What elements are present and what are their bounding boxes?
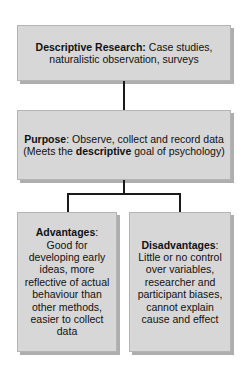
connector-purpose-stem [123, 180, 125, 194]
node-purpose-body-emphasis: descriptive [76, 145, 131, 157]
connector-branch-bar [67, 193, 181, 195]
node-disadvantages-heading-suffix: : [216, 239, 219, 251]
connector-branch-to-advantages [67, 193, 69, 213]
node-advantages-heading-suffix: : [95, 226, 98, 238]
connector-branch-to-disadvantages [179, 193, 181, 213]
descriptive-research-flowchart: Descriptive Research: Case studies, natu… [0, 0, 247, 385]
node-descriptive-research-heading: Descriptive Research: [36, 41, 146, 53]
node-purpose-heading-suffix: : [66, 133, 69, 145]
node-advantages-heading: Advantages [36, 226, 96, 238]
node-advantages-body: Good for developing early ideas, more re… [25, 239, 110, 338]
node-purpose: Purpose: Observe, collect and record dat… [17, 110, 231, 180]
node-disadvantages-heading: Disadvantages [141, 239, 215, 251]
node-advantages: Advantages: Good for developing early id… [17, 212, 117, 352]
node-purpose-text: Purpose: Observe, collect and record dat… [22, 133, 226, 158]
node-purpose-heading: Purpose [24, 133, 66, 145]
node-advantages-text: Advantages: Good for developing early id… [22, 226, 112, 337]
node-purpose-body-after: goal of psychology) [131, 145, 224, 157]
connector-descriptive-to-purpose [123, 81, 125, 111]
node-disadvantages: Disadvantages: Little or no control over… [129, 212, 231, 352]
node-disadvantages-body: Little or no control over variables, res… [138, 251, 223, 325]
node-disadvantages-text: Disadvantages: Little or no control over… [134, 239, 226, 326]
node-descriptive-research: Descriptive Research: Case studies, natu… [17, 25, 231, 81]
node-descriptive-research-text: Descriptive Research: Case studies, natu… [22, 41, 226, 66]
